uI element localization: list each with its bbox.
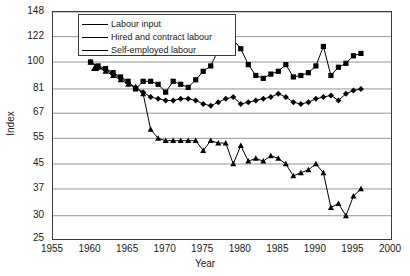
x-tick-1995: 1995 (332, 243, 372, 254)
y-tick-67: 67 (4, 106, 44, 117)
x-tick-1980: 1980 (220, 243, 260, 254)
y-tick-25: 25 (4, 232, 44, 243)
legend-marker-triangle-icon (82, 45, 108, 56)
x-tick-1965: 1965 (107, 243, 147, 254)
y-tick-100: 100 (4, 55, 44, 66)
y-tick-55: 55 (4, 131, 44, 142)
x-tick-1975: 1975 (182, 243, 222, 254)
x-tick-1985: 1985 (257, 243, 297, 254)
x-axis-title: Year (0, 258, 410, 269)
chart-legend: Labour input Hired and contract labour S… (78, 14, 236, 56)
legend-marker-diamond-icon (82, 19, 108, 30)
x-tick-1960: 1960 (70, 243, 110, 254)
y-tick-30: 30 (4, 209, 44, 220)
chart-container: Index Year 25303745556781100122148 19551… (0, 0, 410, 276)
legend-item-labour-input: Labour input (82, 18, 232, 30)
x-tick-2000: 2000 (370, 243, 410, 254)
legend-label-self-employed-labour: Self-employed labour (111, 45, 196, 55)
y-tick-45: 45 (4, 157, 44, 168)
x-tick-1955: 1955 (32, 243, 72, 254)
y-tick-81: 81 (4, 82, 44, 93)
legend-marker-square-icon (82, 32, 108, 43)
y-tick-37: 37 (4, 182, 44, 193)
y-tick-148: 148 (4, 5, 44, 16)
x-tick-1970: 1970 (145, 243, 185, 254)
legend-item-hired-contract-labour: Hired and contract labour (82, 31, 232, 43)
legend-item-self-employed-labour: Self-employed labour (82, 44, 232, 56)
y-axis-title: Index (5, 94, 16, 154)
legend-label-labour-input: Labour input (111, 19, 161, 29)
legend-label-hired-contract-labour: Hired and contract labour (111, 32, 212, 42)
x-tick-1990: 1990 (295, 243, 335, 254)
y-tick-122: 122 (4, 30, 44, 41)
